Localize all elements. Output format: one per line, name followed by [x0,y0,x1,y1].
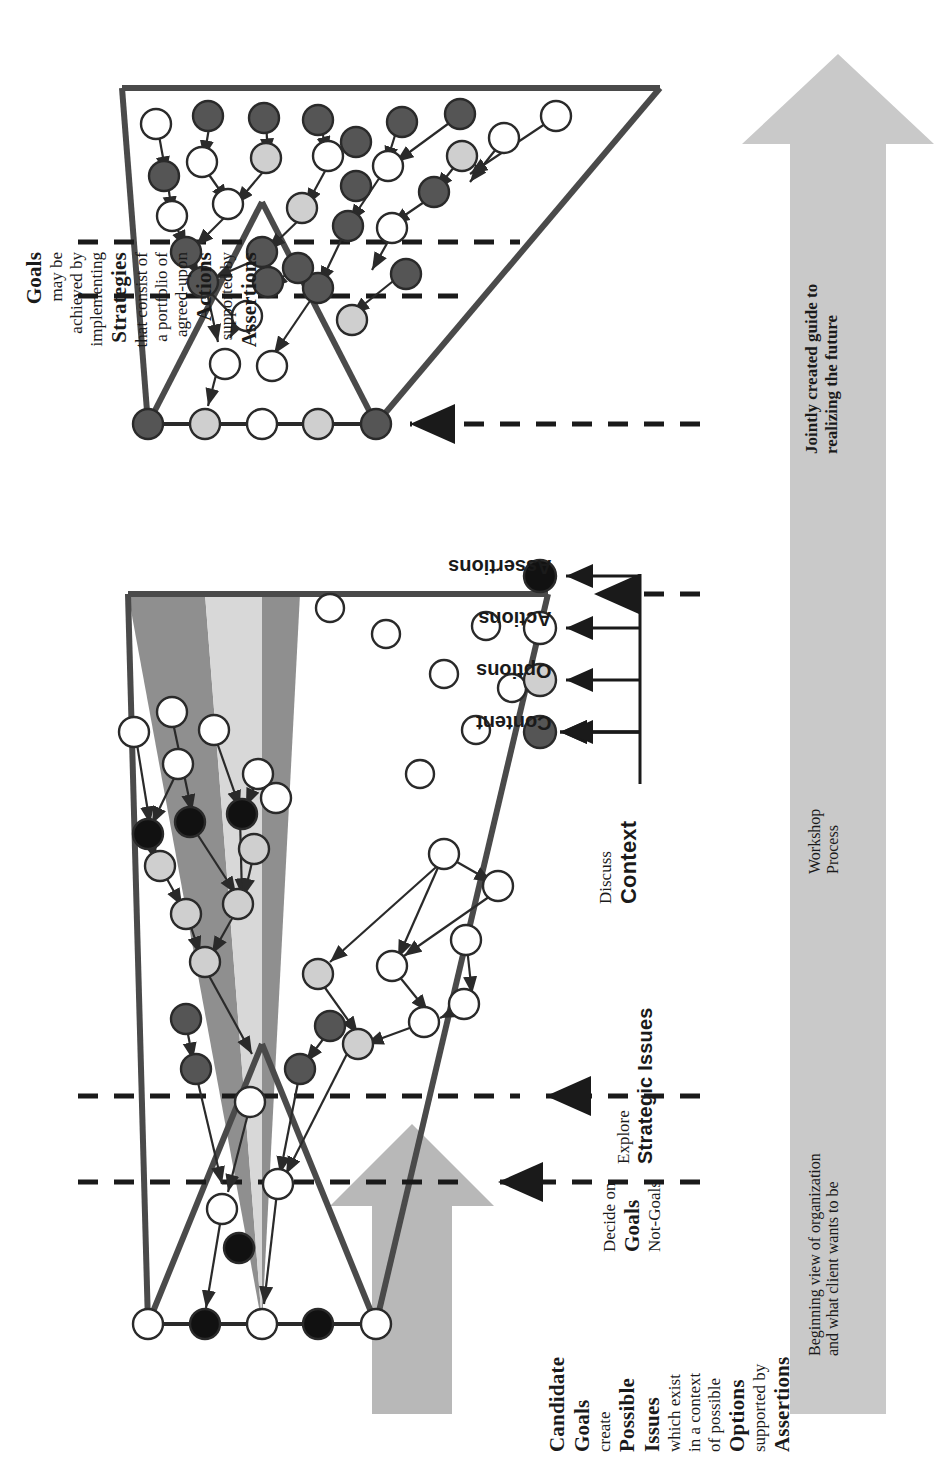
legend-label-assertions: Assertions [448,554,551,578]
legend-label-actions: Actions [478,606,551,630]
legend-label-options: Options [476,658,552,682]
legend-label-content: Content [476,710,552,734]
diagram-canvas: Beginning view of organization and what … [0,0,942,1474]
legend-connectors [0,0,942,1474]
